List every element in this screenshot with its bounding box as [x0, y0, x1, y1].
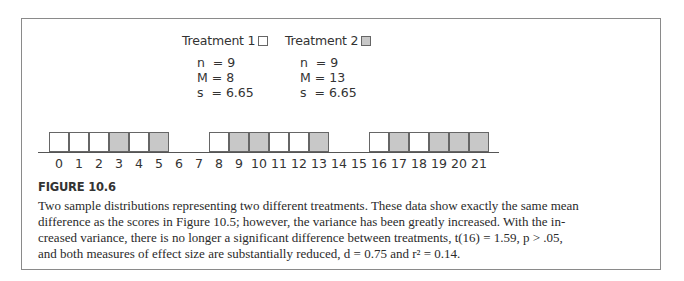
- score-box: [89, 132, 109, 152]
- score-box: [249, 132, 269, 152]
- score-box: [289, 132, 309, 152]
- score-box: [229, 132, 249, 152]
- x-tick-label: 14: [329, 156, 349, 171]
- x-tick-label: 7: [189, 156, 209, 171]
- figure-caption: Two sample distributions representing tw…: [38, 198, 638, 262]
- score-box: [449, 132, 469, 152]
- score-box: [49, 132, 69, 152]
- score-box: [109, 132, 129, 152]
- x-tick-label: 3: [109, 156, 129, 171]
- legend-treatment-1: Treatment 1: [182, 33, 268, 48]
- stat-n: n = 9: [300, 55, 357, 70]
- x-tick-label: 4: [129, 156, 149, 171]
- x-tick-label: 12: [289, 156, 309, 171]
- legend-treatment-2: Treatment 2: [285, 33, 371, 48]
- x-tick-label: 20: [449, 156, 469, 171]
- score-box: [409, 132, 429, 152]
- stat-sd: s = 6.65: [300, 85, 357, 100]
- caption-line: and both measures of effect size are sub…: [38, 246, 638, 262]
- score-box: [129, 132, 149, 152]
- score-box: [149, 132, 169, 152]
- stat-sd: s = 6.65: [197, 85, 254, 100]
- x-tick-label: 1: [69, 156, 89, 171]
- figure-label: FIGURE 10.6: [38, 180, 116, 194]
- x-tick-label: 15: [349, 156, 369, 171]
- caption-line: difference as the scores in Figure 10.5;…: [38, 214, 638, 230]
- score-box: [269, 132, 289, 152]
- x-tick-label: 2: [89, 156, 109, 171]
- x-tick-label: 11: [269, 156, 289, 171]
- x-tick-label: 6: [169, 156, 189, 171]
- caption-line: Two sample distributions representing tw…: [38, 198, 638, 214]
- white-swatch-icon: [258, 36, 268, 46]
- x-tick-label: 8: [209, 156, 229, 171]
- gray-swatch-icon: [361, 36, 371, 46]
- x-tick-label: 10: [249, 156, 269, 171]
- x-tick-label: 9: [229, 156, 249, 171]
- score-box: [369, 132, 389, 152]
- legend-label-treatment-1: Treatment 1: [182, 33, 255, 48]
- x-tick-label: 0: [49, 156, 69, 171]
- caption-line: creased variance, there is no longer a s…: [38, 230, 638, 246]
- score-box: [69, 132, 89, 152]
- score-box: [209, 132, 229, 152]
- x-tick-label: 18: [409, 156, 429, 171]
- stat-n: n = 9: [197, 55, 254, 70]
- legend-label-treatment-2: Treatment 2: [285, 33, 358, 48]
- stat-mean: M = 13: [300, 70, 357, 85]
- stats-treatment-2: n = 9 M = 13 s = 6.65: [300, 55, 357, 100]
- score-box: [309, 132, 329, 152]
- x-tick-label: 17: [389, 156, 409, 171]
- x-tick-label: 13: [309, 156, 329, 171]
- x-tick-label: 21: [469, 156, 489, 171]
- x-tick-label: 19: [429, 156, 449, 171]
- stat-mean: M = 8: [197, 70, 254, 85]
- x-tick-label: 16: [369, 156, 389, 171]
- score-box: [389, 132, 409, 152]
- x-axis-line: [38, 152, 499, 153]
- score-box: [429, 132, 449, 152]
- score-box: [469, 132, 489, 152]
- stats-treatment-1: n = 9 M = 8 s = 6.65: [197, 55, 254, 100]
- x-tick-label: 5: [149, 156, 169, 171]
